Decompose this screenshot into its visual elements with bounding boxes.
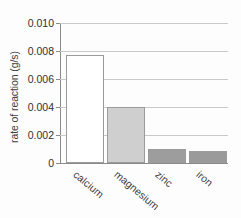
y-tick-label: 0.006 [28, 73, 54, 85]
plot-area: 00.0020.0040.0060.0080.010 [60, 23, 228, 163]
y-tick-label: 0.004 [28, 101, 54, 113]
x-tick-label: iron [194, 168, 215, 188]
y-tick-mark [56, 107, 60, 108]
gridline [60, 51, 228, 52]
y-tick-mark [56, 79, 60, 80]
y-tick-mark [56, 51, 60, 52]
x-tick-label: zinc [153, 168, 175, 189]
gridline [60, 23, 228, 24]
y-tick-mark [56, 163, 60, 164]
y-tick-label: 0.008 [28, 45, 54, 57]
y-tick-mark [56, 135, 60, 136]
bar [107, 107, 145, 163]
y-tick-label: 0.002 [28, 129, 54, 141]
y-tick-label: 0.010 [28, 17, 54, 29]
x-axis-line [60, 163, 228, 164]
y-tick-label: 0 [48, 157, 54, 169]
x-tick-label: calcium [71, 168, 106, 200]
bar [189, 151, 227, 163]
y-axis-title: rate of reaction (g/s) [8, 22, 26, 172]
bar [66, 55, 104, 163]
bar [148, 149, 186, 163]
y-tick-mark [56, 23, 60, 24]
bar-chart-figure: rate of reaction (g/s) 00.0020.0040.0060… [0, 0, 241, 218]
